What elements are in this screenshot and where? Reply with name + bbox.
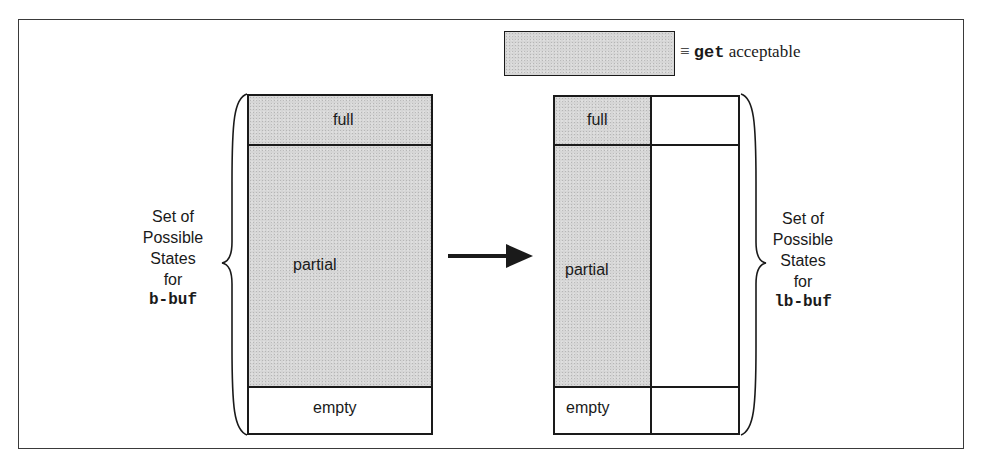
divider bbox=[555, 144, 738, 146]
b-buf-name: b-buf bbox=[128, 290, 218, 311]
right-arrow-icon bbox=[446, 243, 536, 269]
legend-swatch bbox=[504, 31, 675, 76]
b-buf-partial-label: partial bbox=[293, 256, 337, 274]
lb-buf-set-label: Set of Possible States for lb-buf bbox=[758, 208, 848, 313]
lb-buf-name: lb-buf bbox=[758, 292, 848, 313]
lb-buf-partial-label: partial bbox=[565, 261, 609, 279]
lb-buf-empty-label: empty bbox=[566, 399, 610, 417]
legend-description: acceptable bbox=[729, 42, 801, 61]
divider bbox=[650, 97, 652, 433]
legend-keyword: get bbox=[694, 43, 725, 62]
divider bbox=[249, 144, 431, 146]
lb-buf-state-box: full partial empty bbox=[553, 95, 740, 435]
left-brace-icon bbox=[214, 92, 250, 437]
divider bbox=[249, 386, 431, 388]
b-buf-full-label: full bbox=[333, 111, 353, 129]
b-buf-empty-label: empty bbox=[313, 399, 357, 417]
lb-buf-full-label: full bbox=[587, 111, 607, 129]
b-buf-partial-cell bbox=[249, 146, 431, 386]
equivalence-symbol: ≡ bbox=[680, 42, 690, 61]
divider bbox=[555, 386, 738, 388]
b-buf-set-label: Set of Possible States for b-buf bbox=[128, 206, 218, 311]
legend-label: ≡ get acceptable bbox=[680, 42, 800, 62]
b-buf-state-box: full partial empty bbox=[247, 94, 433, 435]
